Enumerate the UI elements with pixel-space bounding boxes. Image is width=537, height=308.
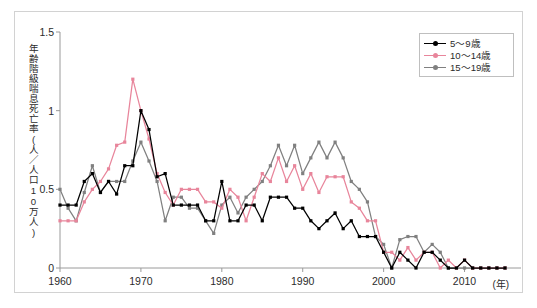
chart-figure: 年齢階級喘息死亡率(人／人口10万人) 00.511.5196019701980…: [0, 0, 537, 308]
y-tick-label: 0: [16, 263, 54, 274]
legend-label-15-19: 15〜19歳: [450, 62, 491, 73]
legend-label-5-9: 5〜9歳: [450, 38, 481, 49]
x-tick-label: 1970: [116, 276, 166, 287]
y-tick-label: 1.5: [16, 27, 54, 38]
x-tick-label: 2000: [359, 276, 409, 287]
y-tick-label: 1: [16, 106, 54, 117]
legend-item-5-9: 5〜9歳: [424, 37, 509, 49]
legend-item-10-14: 10〜14歳: [424, 49, 509, 61]
x-tick-label: 1960: [35, 276, 85, 287]
legend-key-pink: [424, 50, 446, 60]
y-tick-label: 0.5: [16, 184, 54, 195]
x-axis-unit: (年): [493, 276, 510, 291]
legend-label-10-14: 10〜14歳: [450, 50, 491, 61]
x-tick-label: 1990: [278, 276, 328, 287]
chart-legend: 5〜9歳 10〜14歳 15〜19歳: [419, 33, 514, 77]
x-tick-label: 2010: [440, 276, 490, 287]
legend-item-15-19: 15〜19歳: [424, 61, 509, 73]
series-15〜19歳: [58, 141, 506, 270]
legend-key-black: [424, 38, 446, 48]
series-10〜14歳: [58, 78, 506, 270]
legend-key-gray: [424, 62, 446, 72]
x-tick-label: 1980: [197, 276, 247, 287]
